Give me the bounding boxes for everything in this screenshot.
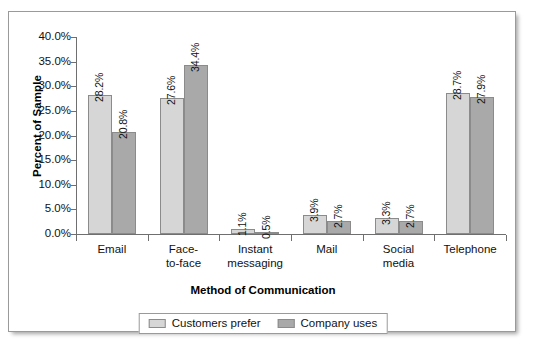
- legend-entry[interactable]: Customers prefer: [149, 317, 261, 329]
- bar-value-label: 28.2%: [93, 73, 105, 102]
- bar-value-label: 2.7%: [404, 204, 416, 228]
- legend-label: Customers prefer: [172, 317, 261, 329]
- x-axis-title: Method of Communication: [9, 284, 517, 296]
- bar-value-label: 0.5%: [260, 215, 272, 239]
- bar-value-label: 3.9%: [308, 198, 320, 222]
- legend-entry[interactable]: Company uses: [278, 317, 378, 329]
- bar-value-label: 34.4%: [189, 42, 201, 71]
- bar: [184, 65, 208, 234]
- plot-area: Percent of Sample 0.0%5.0%10.0%15.0%20.0…: [9, 12, 517, 333]
- x-axis-tick-mark: [291, 235, 292, 241]
- chart-legend: Customers preferCompany uses: [139, 313, 388, 334]
- x-axis-tick-mark: [434, 235, 435, 241]
- bar: [470, 97, 494, 234]
- y-axis-tick-mark: [71, 111, 76, 112]
- x-axis-tick-mark: [506, 235, 507, 241]
- bar: [88, 95, 112, 234]
- y-axis-tick-mark: [71, 37, 76, 38]
- bar-value-label: 27.6%: [165, 76, 177, 105]
- y-axis-tick-mark: [71, 160, 76, 161]
- x-axis-tick-mark: [76, 235, 77, 241]
- x-axis-tick-mark: [148, 235, 149, 241]
- legend-swatch-icon: [278, 319, 295, 328]
- y-axis-tick-mark: [71, 62, 76, 63]
- bar-value-label: 3.3%: [380, 201, 392, 225]
- x-axis-category-label: Instantmessaging: [219, 243, 291, 270]
- bar: [112, 132, 136, 234]
- bar-value-label: 28.7%: [451, 70, 463, 99]
- bar-value-label: 27.9%: [475, 74, 487, 103]
- legend-label: Company uses: [301, 317, 378, 329]
- bar: [160, 98, 184, 234]
- x-axis-category-label: Socialmedia: [363, 243, 435, 270]
- x-axis-category-label: Telephone: [434, 243, 506, 257]
- x-axis-tick-mark: [219, 235, 220, 241]
- x-axis-tick-mark: [363, 235, 364, 241]
- bar-value-label: 2.7%: [332, 204, 344, 228]
- y-axis-tick-mark: [71, 136, 76, 137]
- x-axis-category-label: Face-to-face: [148, 243, 220, 270]
- legend-swatch-icon: [149, 319, 166, 328]
- y-axis-tick-mark: [71, 209, 76, 210]
- x-axis-category-label: Mail: [291, 243, 363, 257]
- y-axis-tick-mark: [71, 185, 76, 186]
- bar-value-label: 1.1%: [236, 212, 248, 236]
- x-axis-category-label: Email: [76, 243, 148, 257]
- bar: [446, 93, 470, 234]
- bar-value-label: 20.8%: [117, 109, 129, 138]
- chart-figure-frame: Percent of Sample 0.0%5.0%10.0%15.0%20.0…: [8, 11, 516, 332]
- y-axis-tick-mark: [71, 86, 76, 87]
